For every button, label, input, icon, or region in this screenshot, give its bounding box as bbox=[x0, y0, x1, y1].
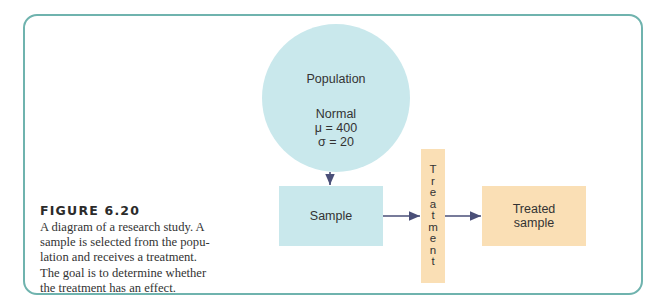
arrows bbox=[0, 0, 666, 307]
